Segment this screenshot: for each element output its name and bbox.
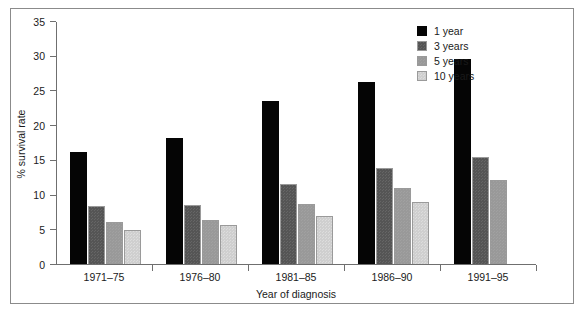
legend-item: 3 years bbox=[417, 38, 474, 53]
legend-swatch-icon bbox=[417, 41, 427, 51]
bar bbox=[490, 180, 507, 264]
x-axis-category-label: 1991–95 bbox=[440, 271, 536, 283]
x-axis-tick bbox=[536, 265, 537, 271]
legend-swatch-icon bbox=[417, 71, 427, 81]
bar bbox=[88, 206, 105, 264]
y-axis-label: % survival rate bbox=[14, 22, 28, 265]
chart-legend: 1 year3 years5 years10 years bbox=[417, 23, 474, 83]
legend-label: 10 years bbox=[434, 70, 474, 82]
bar bbox=[358, 82, 375, 264]
legend-item: 1 year bbox=[417, 23, 474, 38]
y-axis-tick: 0 bbox=[50, 264, 56, 265]
bar-group bbox=[56, 21, 152, 264]
bar bbox=[124, 230, 141, 264]
x-axis-line bbox=[56, 264, 536, 265]
y-axis-label-text: % survival rate bbox=[15, 109, 27, 178]
bar bbox=[376, 168, 393, 265]
legend-label: 5 years bbox=[434, 55, 468, 67]
legend-swatch-icon bbox=[417, 26, 427, 36]
y-axis-tick-label: 35 bbox=[33, 16, 45, 28]
x-axis-label-text: Year of diagnosis bbox=[256, 288, 336, 300]
bar bbox=[166, 138, 183, 264]
bar bbox=[298, 204, 315, 264]
x-axis-category-label: 1981–85 bbox=[248, 271, 344, 283]
bar bbox=[70, 152, 87, 264]
y-axis-tick-label: 15 bbox=[33, 154, 45, 166]
bar bbox=[280, 184, 297, 264]
y-axis-tick-label: 10 bbox=[33, 189, 45, 201]
bar bbox=[454, 59, 471, 265]
x-axis-category-label: 1986–90 bbox=[344, 271, 440, 283]
y-axis-tick-label: 25 bbox=[33, 85, 45, 97]
bar bbox=[262, 101, 279, 264]
bar-group bbox=[152, 21, 248, 264]
chart-figure: % survival rate 05101520253035 1971–7519… bbox=[0, 0, 585, 327]
bar-group bbox=[248, 21, 344, 264]
bar bbox=[412, 202, 429, 264]
legend-item: 10 years bbox=[417, 68, 474, 83]
x-axis-label: Year of diagnosis bbox=[56, 288, 536, 300]
x-axis-category-label: 1976–80 bbox=[152, 271, 248, 283]
y-axis-tick-label: 5 bbox=[39, 224, 45, 236]
bar bbox=[184, 205, 201, 264]
bar bbox=[394, 188, 411, 264]
x-axis-category-label: 1971–75 bbox=[56, 271, 152, 283]
bar bbox=[316, 216, 333, 264]
y-axis-tick-label: 0 bbox=[39, 259, 45, 271]
bar bbox=[220, 225, 237, 264]
bar bbox=[202, 220, 219, 264]
legend-item: 5 years bbox=[417, 53, 474, 68]
bar bbox=[472, 157, 489, 264]
y-axis-tick-label: 20 bbox=[33, 120, 45, 132]
legend-label: 1 year bbox=[434, 25, 463, 37]
bar bbox=[106, 222, 123, 264]
legend-label: 3 years bbox=[434, 40, 468, 52]
legend-swatch-icon bbox=[417, 56, 427, 66]
y-axis-tick-label: 30 bbox=[33, 50, 45, 62]
